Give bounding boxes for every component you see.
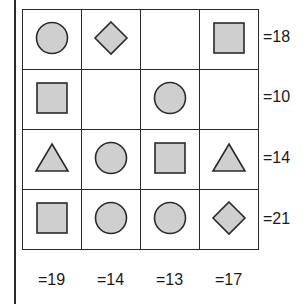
shape-grid bbox=[22, 9, 259, 250]
grid-cell-r1-c3 bbox=[141, 10, 200, 70]
col-sum-1: =19 bbox=[22, 271, 81, 289]
col-sum-2: =14 bbox=[81, 271, 140, 289]
grid-cell-r2-c4 bbox=[200, 70, 259, 130]
triangle-icon bbox=[34, 140, 70, 180]
grid-cell-r3-c1 bbox=[23, 130, 82, 190]
circle-icon bbox=[93, 200, 129, 240]
square-icon bbox=[211, 20, 247, 60]
grid-cell-r1-c4 bbox=[200, 10, 259, 70]
grid-cell-r2-c3 bbox=[141, 70, 200, 130]
col-sum-4: =17 bbox=[199, 271, 258, 289]
row-sum-4: =21 bbox=[263, 210, 290, 228]
grid-cell-r3-c3 bbox=[141, 130, 200, 190]
grid-cell-r2-c1 bbox=[23, 70, 82, 130]
circle-icon bbox=[152, 200, 188, 240]
circle-icon bbox=[152, 80, 188, 120]
grid-cell-r4-c4 bbox=[200, 190, 259, 250]
circle-icon bbox=[34, 20, 70, 60]
row-sum-1: =18 bbox=[263, 28, 290, 46]
grid-cell-r4-c1 bbox=[23, 190, 82, 250]
circle-icon bbox=[93, 140, 129, 180]
grid-cell-r1-c1 bbox=[23, 10, 82, 70]
grid-cell-r4-c3 bbox=[141, 190, 200, 250]
square-icon bbox=[152, 140, 188, 180]
triangle-icon bbox=[211, 140, 247, 180]
col-sum-3: =13 bbox=[140, 271, 199, 289]
diamond-icon bbox=[93, 20, 129, 60]
grid-cell-r3-c4 bbox=[200, 130, 259, 190]
left-divider-line bbox=[14, 0, 16, 304]
square-icon bbox=[34, 80, 70, 120]
grid-cell-r2-c2 bbox=[82, 70, 141, 130]
grid-cell-r4-c2 bbox=[82, 190, 141, 250]
diamond-icon bbox=[211, 200, 247, 240]
row-sum-2: =10 bbox=[263, 88, 290, 106]
square-icon bbox=[34, 200, 70, 240]
grid-cell-r3-c2 bbox=[82, 130, 141, 190]
row-sum-3: =14 bbox=[263, 149, 290, 167]
grid-cell-r1-c2 bbox=[82, 10, 141, 70]
